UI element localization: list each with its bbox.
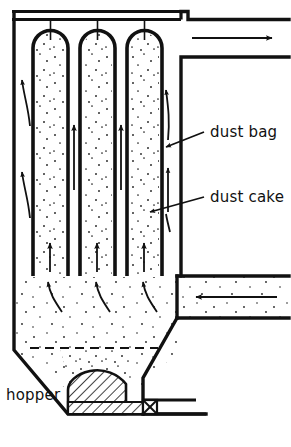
discharge-valve-icon (143, 400, 157, 414)
dust-cake-fill-bag-3 (130, 34, 159, 277)
dust-bag-leader-line (166, 132, 204, 147)
right-annulus-flow-arrows (166, 90, 170, 232)
outlet-duct-top-wall (181, 12, 289, 20)
dust-cake-fill-group (36, 34, 159, 277)
diagram-canvas: dust bag dust cake hopper (0, 0, 291, 447)
dust-cake-fill-bag-2 (83, 34, 112, 277)
dust-bag-label: dust bag (210, 123, 277, 141)
roof-plate (12, 12, 181, 20)
dust-cake-fill-bag-1 (36, 34, 65, 277)
hopper-label: hopper (6, 386, 61, 404)
baghouse-diagram: dust bag dust cake hopper (0, 0, 291, 447)
dust-cake-label: dust cake (210, 188, 284, 206)
collected-dust-pile-base (68, 402, 143, 414)
left-annulus-flow-arrows (22, 80, 30, 218)
outlet-duct-bottom-wall (181, 57, 289, 276)
